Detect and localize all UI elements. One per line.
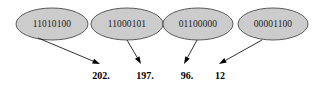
- decimal-value-label-1: 202.: [92, 70, 110, 81]
- decimal-value-label-4: 12: [215, 70, 225, 81]
- conversion-arrow-head-2: [135, 56, 141, 64]
- octet-binary-label-2: 11000101: [108, 19, 147, 29]
- conversion-arrow-head-3: [184, 56, 190, 64]
- octet-binary-label-1: 11010100: [33, 19, 72, 29]
- conversion-arrow-line-4: [226, 40, 262, 60]
- conversion-arrow-head-4: [219, 58, 227, 64]
- conversion-arrow-line-2: [127, 40, 137, 58]
- conversion-arrow-head-1: [92, 59, 100, 64]
- octet-binary-label-3: 01100000: [179, 19, 218, 29]
- decimal-value-label-3: 96.: [181, 70, 194, 81]
- octet-binary-label-4: 00001100: [254, 19, 293, 29]
- diagram-canvas: 11010100 202. 11000101 197. 01100000 96.…: [0, 0, 315, 86]
- conversion-arrow-line-3: [188, 40, 197, 57]
- conversion-arrow-line-1: [38, 38, 93, 61]
- binary-to-decimal-diagram: 11010100 202. 11000101 197. 01100000 96.…: [0, 0, 315, 86]
- decimal-value-label-2: 197.: [136, 70, 154, 81]
